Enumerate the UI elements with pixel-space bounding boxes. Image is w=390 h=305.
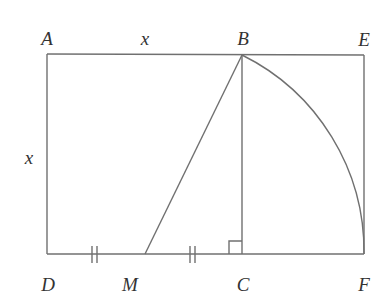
label-point-D: D — [41, 275, 55, 294]
label-side-top-x: x — [141, 29, 149, 48]
diagram-canvas: A B E D M C F x x — [0, 0, 390, 305]
geometry-figure — [0, 0, 390, 305]
segment-MB — [145, 55, 242, 254]
right-angle-C — [229, 241, 242, 254]
label-point-A: A — [41, 29, 53, 48]
label-point-F: F — [358, 275, 370, 294]
arc-BF — [242, 55, 364, 254]
label-point-M: M — [122, 275, 138, 294]
label-point-C: C — [237, 275, 250, 294]
label-point-E: E — [358, 30, 370, 49]
label-side-left-x: x — [25, 148, 33, 167]
segment-AE — [47, 54, 364, 55]
label-point-B: B — [237, 29, 249, 48]
